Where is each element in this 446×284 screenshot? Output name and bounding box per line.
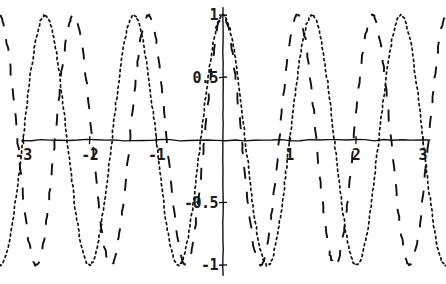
x-tick-label: 3 [418,146,427,164]
y-tick-label: -1 [201,256,218,274]
y-axis-line [223,8,224,276]
y-tick-label: 0.5 [192,69,218,87]
plot-svg [0,0,446,284]
x-tick-label: 2 [352,146,361,164]
x-tick-label: -1 [148,146,165,164]
plot-canvas: -3-2-1123 10.5-0.5-1 [0,0,446,284]
x-tick-label: 1 [285,146,294,164]
y-tick-label: -0.5 [184,194,218,212]
y-tick-mark [219,77,227,78]
x-tick-label: -3 [15,146,32,164]
x-axis-line [22,139,430,141]
x-tick-label: -2 [81,146,98,164]
y-tick-label: 1 [209,6,218,24]
